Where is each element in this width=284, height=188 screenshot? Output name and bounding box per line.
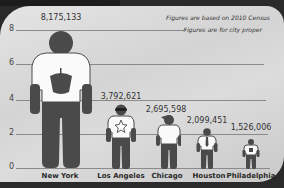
y-tick-4: 4 [4, 94, 14, 103]
person-star-shirt-sunglasses-icon [104, 104, 138, 169]
label-los-angeles: Los Angeles [97, 172, 144, 180]
y-tick-6: 6 [4, 58, 14, 67]
value-los-angeles: 3,792,621 [101, 92, 142, 101]
value-houston: 2,099,451 [187, 116, 228, 125]
person-small-icon [242, 139, 260, 169]
y-tick-0: 0 [4, 162, 14, 171]
note-city-proper: Figures are for city proper [183, 26, 262, 33]
y-tick-2: 2 [4, 128, 14, 137]
note-census: Figures are based on 2010 Census [166, 14, 270, 21]
chart-frame: Figures are based on 2010 Census Figures… [0, 0, 284, 188]
y-tick-8: 8 [4, 24, 14, 33]
value-philadelphia: 1,526,006 [231, 123, 272, 132]
label-chicago: Chicago [151, 172, 182, 180]
label-houston: Houston [193, 172, 226, 180]
label-philadelphia: Philadelphia [227, 172, 276, 180]
label-new-york: New York [42, 172, 79, 180]
person-apple-shirt-icon [28, 30, 94, 169]
person-baseball-cap-icon [155, 114, 181, 169]
value-new-york: 8,175,133 [41, 13, 82, 22]
person-tie-icon [196, 128, 218, 169]
value-chicago: 2,695,598 [146, 105, 187, 114]
